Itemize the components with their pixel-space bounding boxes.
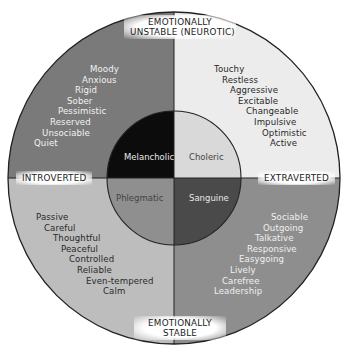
trait-item: Sober (67, 96, 115, 107)
trait-item: Reserved (50, 117, 98, 128)
traits-phlegmatic: Passive Careful Thoughtful Peaceful Cont… (36, 212, 104, 297)
temperament-phlegmatic: Phlegmatic (116, 193, 163, 203)
trait-item: Rigid (75, 85, 123, 96)
traits-melancholic: Moody Anxious Rigid Sober Pessimistic Re… (34, 64, 82, 149)
trait-item: Sociable (271, 212, 321, 223)
trait-item: Outgoing (263, 223, 313, 234)
axis-label-unstable-line2: UNSTABLE (NEUROTIC) (130, 27, 230, 37)
trait-item: Even-tempered (86, 276, 154, 287)
trait-item: Lively (230, 265, 280, 276)
trait-item: Quiet (34, 138, 82, 149)
trait-item: Aggressive (230, 85, 282, 96)
trait-item: Anxious (82, 75, 130, 86)
trait-item: Controlled (69, 254, 137, 265)
trait-item: Carefree (222, 276, 272, 287)
trait-item: Reliable (77, 265, 145, 276)
trait-item: Leadership (214, 286, 264, 297)
temperament-sanguine: Sanguine (189, 193, 229, 203)
trait-item: Passive (36, 212, 104, 223)
axis-label-stable-line2: STABLE (140, 328, 220, 338)
axis-label-unstable-line1: EMOTIONALLY (130, 17, 230, 27)
axis-label-unstable: EMOTIONALLY UNSTABLE (NEUROTIC) (124, 15, 236, 39)
trait-item: Calm (103, 286, 171, 297)
trait-item: Easygoing (239, 254, 289, 265)
trait-item: Careful (44, 223, 112, 234)
trait-item: Pessimistic (58, 106, 106, 117)
traits-sanguine: Sociable Outgoing Talkative Responsive E… (214, 212, 264, 297)
axis-label-introverted: INTROVERTED (16, 171, 92, 185)
trait-item: Responsive (247, 244, 297, 255)
temperament-choleric: Choleric (189, 152, 224, 162)
trait-item: Touchy (214, 64, 266, 75)
axis-label-extraverted: EXTRAVERTED (258, 171, 335, 185)
trait-item: Impulsive (254, 117, 306, 128)
trait-item: Excitable (238, 96, 290, 107)
trait-item: Active (270, 138, 322, 149)
temperament-diagram: EMOTIONALLY UNSTABLE (NEUROTIC) EMOTIONA… (0, 0, 344, 351)
trait-item: Talkative (255, 233, 305, 244)
axis-label-stable-line1: EMOTIONALLY (140, 318, 220, 328)
traits-choleric: Touchy Restless Aggressive Excitable Cha… (214, 64, 266, 149)
trait-item: Changeable (246, 106, 298, 117)
axis-label-stable: EMOTIONALLY STABLE (134, 316, 226, 340)
trait-item: Thoughtful (53, 233, 121, 244)
trait-item: Optimistic (262, 128, 314, 139)
trait-item: Moody (90, 64, 138, 75)
trait-item: Peaceful (61, 244, 129, 255)
trait-item: Restless (222, 75, 274, 86)
trait-item: Unsociable (42, 128, 90, 139)
temperament-melancholic: Melancholic (124, 152, 174, 162)
